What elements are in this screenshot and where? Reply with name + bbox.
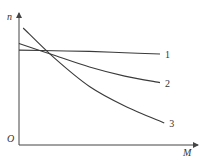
series-label-3: 3 bbox=[169, 118, 174, 129]
x-axis-label: M bbox=[182, 147, 192, 158]
chart: n M O 123 bbox=[0, 0, 208, 162]
series-layer: 123 bbox=[19, 28, 174, 129]
series-line-3 bbox=[23, 28, 164, 123]
y-axis-label: n bbox=[7, 11, 12, 22]
series-label-1: 1 bbox=[165, 49, 170, 60]
series-label-2: 2 bbox=[165, 78, 170, 89]
series-line-2 bbox=[19, 44, 160, 83]
origin-label: O bbox=[7, 133, 14, 144]
